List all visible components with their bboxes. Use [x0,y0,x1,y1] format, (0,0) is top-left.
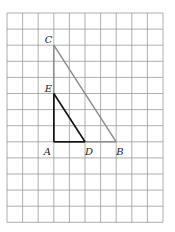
label-c: C [45,34,53,45]
label-d: D [84,146,93,157]
grid [7,13,163,222]
label-e: E [44,83,53,94]
figure-caption: Figure 13-48 [56,230,119,232]
label-a: A [43,146,51,157]
similar-triangles-figure: C E A D B Figure 13-48 [0,0,175,232]
label-b: B [115,146,123,157]
